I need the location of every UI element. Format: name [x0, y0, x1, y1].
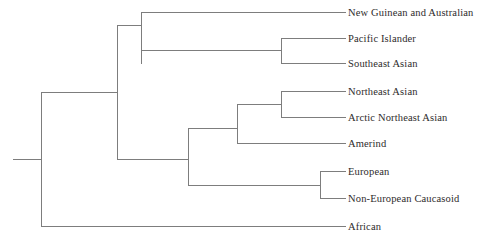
- leaf-label: Arctic Northeast Asian: [348, 112, 448, 123]
- leaf-label: African: [348, 221, 381, 232]
- leaf-label: New Guinean and Australian: [348, 7, 474, 18]
- dendrogram-figure: New Guinean and AustralianPacific Island…: [0, 0, 486, 243]
- leaf-label: Southeast Asian: [348, 58, 418, 69]
- leaf-label: Northeast Asian: [348, 86, 418, 97]
- leaf-label: European: [348, 166, 389, 177]
- leaf-label: Amerind: [348, 138, 386, 149]
- leaf-label: Pacific Islander: [348, 33, 416, 44]
- leaf-label: Non-European Caucasoid: [348, 193, 459, 204]
- leaf-label-layer: New Guinean and AustralianPacific Island…: [0, 0, 486, 243]
